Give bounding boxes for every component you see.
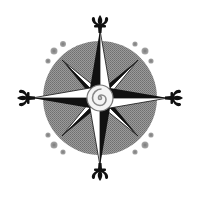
compass-rose-illustration <box>0 0 197 200</box>
fleur-de-lis-north-icon <box>92 15 108 33</box>
fleur-de-lis-south-icon <box>92 163 108 181</box>
fleur-de-lis-west-icon <box>17 90 35 106</box>
fleur-de-lis-east-icon <box>165 90 183 106</box>
spiral-center-icon <box>87 85 113 111</box>
